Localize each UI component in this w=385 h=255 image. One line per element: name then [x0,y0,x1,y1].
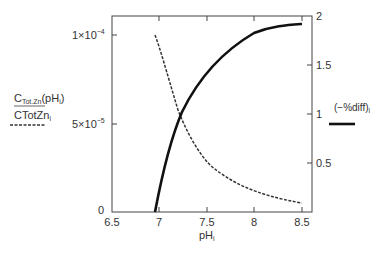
right-axis-label: (−%diff)i [334,102,370,114]
x-tick-label: 7 [156,216,162,228]
x-tick-label: 6.5 [104,216,119,228]
left-tick-label-0: 0 [98,204,104,216]
tick-exponent: −5 [97,117,105,124]
right-y-ticks [307,65,312,163]
right-tick-label: 1 [316,108,322,120]
left-tick-label-1e-4: 1×10−4 [72,28,105,41]
plot-frame [112,16,312,212]
label-subscript: i [213,235,215,242]
tick-text: 0 [98,204,104,216]
x-axis-label: pHi [199,229,215,242]
x-tick-label: 8 [251,216,257,228]
left-axis-label-denominator: CTotZni [14,109,51,122]
label-text: pH [199,229,213,241]
series-percent-diff [155,24,302,212]
label-subscript: i [369,107,371,114]
left-axis-label-numerator: CTot.Zn(pHi) [14,92,64,105]
label-text: ) [61,92,65,104]
left-tick-label-5e-5: 5×10−5 [72,117,105,130]
label-subscript: i [49,115,51,122]
right-tick-label: 1.5 [316,59,331,71]
right-tick-label: 0.5 [316,157,331,169]
label-text: C [14,92,22,104]
x-tick-label: 8.5 [294,216,309,228]
label-subscript: Tot.Zn [22,98,41,105]
tick-text: 5×10 [72,118,97,130]
tick-text: 1×10 [72,29,97,41]
series-concentration-ratio [155,35,302,203]
label-text: (pH [41,92,59,104]
right-tick-label: 2 [316,10,322,22]
x-tick-label: 7.5 [199,216,214,228]
tick-exponent: −4 [97,28,105,35]
label-text: CTotZn [14,109,49,121]
label-text: (−%diff) [334,102,369,113]
chart-canvas: 6.5 7 7.5 8 8.5 0.5 1 1.5 2 [0,0,385,255]
left-y-ticks [112,35,117,124]
